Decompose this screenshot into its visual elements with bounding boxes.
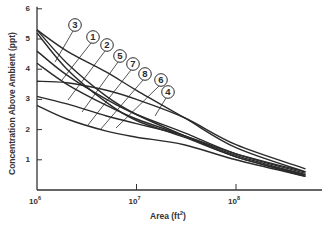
callout-label: 7 [130, 58, 135, 69]
x-tick-label: 107 [129, 195, 141, 206]
y-axis-label: Concentration Above Ambient (ppt) [7, 35, 17, 175]
callout-1: 1 [62, 31, 99, 80]
curve-8 [37, 96, 306, 171]
curve-1 [37, 30, 306, 175]
concentration-vs-area-chart: 31257864 [0, 0, 325, 225]
axes [37, 7, 322, 190]
y-tick-label: 1 [20, 155, 30, 164]
callout-label: 1 [90, 31, 96, 42]
x-tick-label: 108 [228, 195, 240, 206]
callout-label: 2 [104, 39, 109, 50]
y-tick-label: 2 [20, 125, 30, 134]
y-tick-label: 4 [20, 64, 30, 73]
y-tick-label: 5 [20, 34, 30, 43]
curves [37, 30, 306, 177]
x-axis-label: Area (ft2) [150, 210, 186, 221]
callout-3: 3 [55, 19, 81, 62]
callout-label: 3 [72, 19, 77, 30]
callout-label: 8 [142, 68, 147, 79]
x-tick-label: 106 [29, 195, 41, 206]
curve-3 [37, 30, 306, 172]
y-tick-label: 6 [20, 4, 30, 13]
callout-label: 6 [158, 74, 163, 85]
leader-line [55, 31, 73, 62]
callout-label: 4 [165, 86, 171, 97]
y-tick-label: 3 [20, 94, 30, 103]
callout-label: 5 [117, 50, 123, 61]
